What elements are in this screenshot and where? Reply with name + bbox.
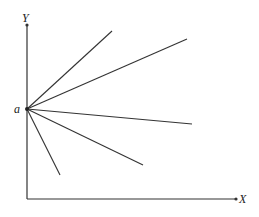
diagram-svg: Y X a [0,0,259,217]
ray-1 [27,31,112,109]
ray-3 [27,109,192,124]
ray-4 [27,109,143,165]
ray-2 [27,39,187,109]
point-a-label: a [14,102,20,116]
x-axis-end-dot [234,197,237,200]
diagram-canvas: Y X a [0,0,259,217]
point-a-dot [25,107,29,111]
y-axis-label: Y [22,11,30,25]
ray-5 [27,109,60,175]
rays-group [27,31,192,175]
x-axis-label: X [238,192,247,206]
